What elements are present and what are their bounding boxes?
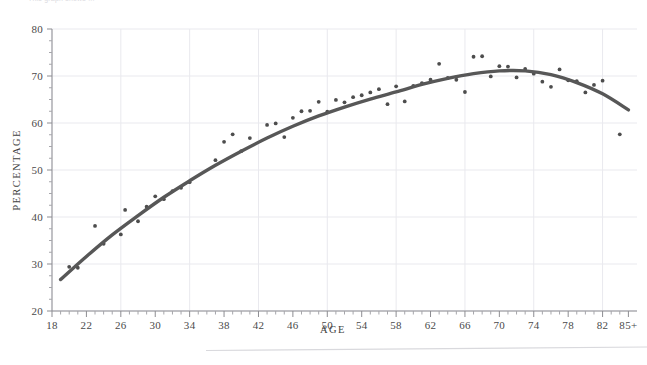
data-point — [386, 102, 390, 106]
y-tick-label: 80 — [31, 23, 43, 35]
x-tick-label: 34 — [184, 319, 196, 331]
data-point — [583, 91, 587, 95]
data-point — [489, 75, 493, 79]
y-tick-labels: 20304050607080 — [31, 23, 43, 317]
data-point — [618, 132, 622, 136]
scatter-chart: 182226303438424650545862667074788285+ 20… — [0, 0, 647, 365]
x-tick-label: 38 — [218, 319, 230, 331]
data-point — [601, 79, 605, 83]
data-point — [351, 95, 355, 99]
data-point — [437, 62, 441, 66]
data-point — [394, 84, 398, 88]
data-point — [515, 76, 519, 80]
x-tick-label: 30 — [149, 319, 161, 331]
y-tick-label: 30 — [31, 258, 43, 270]
x-tick-label: 66 — [459, 319, 471, 331]
chart-figure: This graph shows ... 1822263034384246505… — [0, 0, 647, 365]
x-tick-label: 82 — [597, 319, 609, 331]
x-tick-label: 74 — [528, 319, 540, 331]
x-axis-title: AGE — [320, 324, 346, 335]
data-point — [265, 123, 269, 127]
data-point — [308, 109, 312, 113]
data-point — [472, 55, 476, 59]
data-point — [123, 208, 127, 212]
x-tick-label: 58 — [390, 319, 402, 331]
data-point — [480, 54, 484, 58]
x-tick-label: 46 — [287, 319, 299, 331]
data-point — [67, 265, 71, 269]
data-point — [592, 83, 596, 87]
y-tick-label: 70 — [31, 70, 43, 82]
data-point — [403, 99, 407, 103]
gridlines — [52, 29, 637, 311]
data-point — [558, 68, 562, 72]
data-point — [153, 194, 157, 198]
data-point — [463, 90, 467, 94]
x-tick-label: 18 — [46, 319, 58, 331]
data-point — [497, 64, 501, 68]
y-tick-label: 20 — [31, 305, 43, 317]
data-point — [300, 109, 304, 113]
data-point — [360, 93, 364, 97]
data-point — [248, 136, 252, 140]
data-point — [317, 100, 321, 104]
data-point — [282, 135, 286, 139]
data-point — [540, 80, 544, 84]
x-tick-label: 62 — [425, 319, 437, 331]
data-point — [343, 100, 347, 104]
data-point — [377, 87, 381, 91]
x-tick-label: 85+ — [619, 319, 637, 331]
data-point — [368, 91, 372, 95]
footer-rule — [206, 347, 647, 351]
data-point — [274, 122, 278, 126]
data-point — [136, 219, 140, 223]
y-axis-title: PERCENTAGE — [11, 129, 22, 210]
data-point — [231, 132, 235, 136]
x-tick-label: 42 — [253, 319, 265, 331]
x-tick-label: 22 — [81, 319, 93, 331]
data-point — [222, 140, 226, 144]
x-tick-label: 26 — [115, 319, 127, 331]
data-point — [119, 232, 123, 236]
data-point — [506, 65, 510, 69]
clipped-top-caption: This graph shows ... — [28, 0, 498, 4]
data-point — [291, 116, 295, 120]
x-tick-label: 78 — [562, 319, 574, 331]
y-tick-label: 60 — [31, 117, 43, 129]
x-tick-label: 54 — [356, 319, 368, 331]
data-point — [334, 98, 338, 102]
y-tick-label: 40 — [31, 211, 43, 223]
data-point — [214, 158, 218, 162]
y-tick-label: 50 — [31, 164, 43, 176]
data-point — [93, 224, 97, 228]
data-point — [549, 85, 553, 89]
data-points — [67, 54, 621, 269]
x-tick-label: 70 — [494, 319, 506, 331]
